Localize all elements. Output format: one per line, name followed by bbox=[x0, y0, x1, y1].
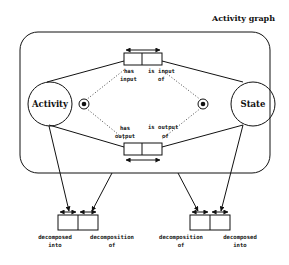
role-is-output-of-1: is output bbox=[148, 124, 178, 131]
activity-graph-diagram: Activity graph has input is input of has… bbox=[0, 0, 289, 265]
output-relation-box bbox=[124, 143, 162, 155]
diagram-title: Activity graph bbox=[211, 13, 275, 23]
role-has-output-2: output bbox=[115, 133, 135, 140]
activity-label: Activity bbox=[31, 99, 69, 109]
role-decomposed-into-2: into bbox=[48, 242, 62, 248]
state-node: State bbox=[231, 82, 275, 126]
object-marker-left-icon bbox=[79, 99, 89, 109]
decomposition-links bbox=[49, 125, 243, 211]
decomposition-relation-right: decomposition of decomposed into bbox=[159, 212, 257, 248]
role-decomposed-into-r1: decomposed bbox=[223, 234, 257, 241]
role-decomposed-into-1: decomposed bbox=[38, 234, 72, 241]
role-decomposition-of-r1: decomposition bbox=[159, 234, 203, 241]
role-has-output-1: has bbox=[120, 125, 130, 131]
role-decomposed-into-r2: into bbox=[233, 242, 247, 248]
activity-node: Activity bbox=[28, 82, 72, 126]
relation-links bbox=[47, 61, 243, 147]
role-is-output-of-2: of bbox=[162, 133, 169, 139]
role-has-input-1: has bbox=[124, 68, 134, 74]
decomposition-relation-left: decomposed into decomposition of bbox=[38, 212, 134, 248]
output-relation: has output is output of bbox=[115, 124, 178, 160]
role-decomposition-of-2: of bbox=[109, 242, 116, 248]
dotted-links bbox=[86, 70, 201, 139]
role-has-input-2: input bbox=[120, 76, 137, 83]
role-decomposition-of-1: decomposition bbox=[90, 234, 134, 241]
object-marker-right-icon bbox=[198, 99, 208, 109]
state-label: State bbox=[241, 99, 266, 109]
role-is-input-of-1: is input bbox=[148, 68, 175, 75]
role-is-input-of-2: of bbox=[158, 76, 165, 82]
input-relation-box bbox=[124, 53, 162, 65]
role-decomposition-of-r2: of bbox=[178, 242, 185, 248]
input-relation: has input is input of bbox=[120, 50, 175, 83]
